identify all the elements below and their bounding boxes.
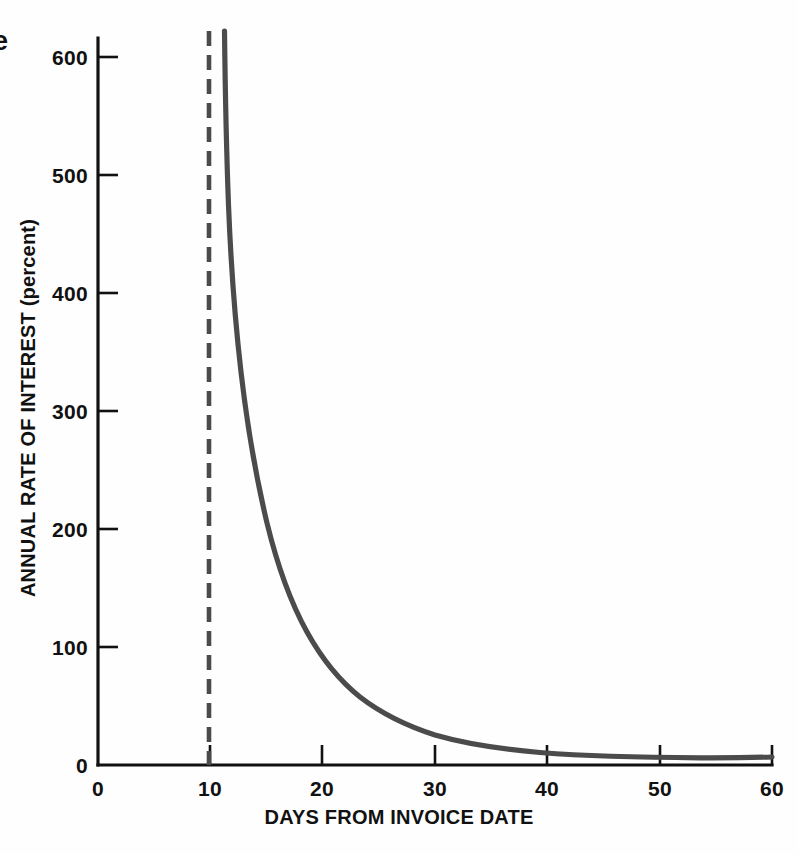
xtick-label-60: 60	[760, 778, 784, 799]
xtick-label-20: 20	[310, 778, 334, 799]
y-axis-title: ANNUAL RATE OF INTEREST (percent)	[14, 28, 42, 788]
xtick-label-0: 0	[92, 778, 104, 799]
x-axis-title: DAYS FROM INVOICE DATE	[0, 806, 798, 829]
plot-area	[0, 0, 798, 854]
chart-page: e	[0, 0, 798, 854]
chart-figure: 0 100 200 300 400 500 600 0 10 20 30 40 …	[0, 0, 798, 854]
xtick-label-40: 40	[535, 778, 559, 799]
interest-rate-curve	[225, 31, 773, 758]
xtick-label-50: 50	[648, 778, 672, 799]
y-tick-marks	[98, 57, 118, 647]
xtick-label-10: 10	[198, 778, 222, 799]
xtick-label-30: 30	[423, 778, 447, 799]
